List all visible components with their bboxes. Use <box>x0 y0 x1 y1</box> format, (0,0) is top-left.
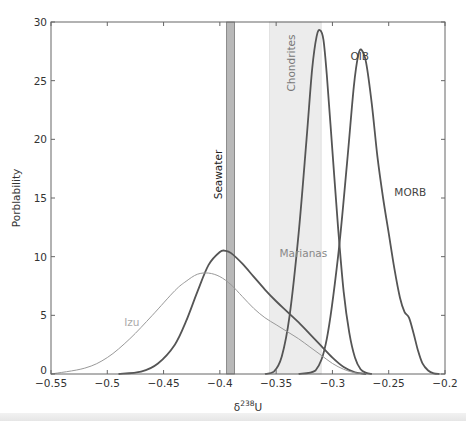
seawater-label: Seawater <box>212 149 224 199</box>
x-tick-label: −0.55 <box>35 377 67 389</box>
morb-label: MORB <box>394 186 426 198</box>
seawater-band <box>227 22 235 374</box>
density-curves <box>51 30 439 374</box>
y-tick-label: 25 <box>34 75 47 87</box>
y-tick-label: 15 <box>34 192 47 204</box>
oib-label: OIB <box>350 50 369 62</box>
x-axis-ticks: −0.55−0.5−0.45−0.4−0.35−0.3−0.25−0.2 <box>35 22 458 389</box>
shaded-bands <box>227 22 322 374</box>
x-tick-label: −0.2 <box>432 377 458 389</box>
x-tick-label: −0.3 <box>320 377 346 389</box>
plot-frame <box>51 22 445 374</box>
izu-label: Izu <box>124 316 139 328</box>
page-bottom-edge <box>0 413 466 421</box>
chondrites-label: Chondrites <box>285 35 297 92</box>
x-tick-label: −0.45 <box>147 377 179 389</box>
y-tick-label: 30 <box>34 16 47 28</box>
x-axis-label: δ238U <box>234 399 262 413</box>
x-tick-label: −0.25 <box>373 377 405 389</box>
y-tick-label: 10 <box>34 251 47 263</box>
x-tick-label: −0.4 <box>207 377 233 389</box>
x-tick-label: −0.35 <box>260 377 292 389</box>
y-axis-label: Porblability <box>10 169 22 227</box>
x-tick-label: −0.5 <box>95 377 121 389</box>
y-tick-label: 20 <box>34 133 47 145</box>
marianas-label: Marianas <box>280 247 328 259</box>
chart-canvas: −0.55−0.5−0.45−0.4−0.35−0.3−0.25−0.2 051… <box>0 0 466 421</box>
y-tick-label: 0 <box>40 364 47 376</box>
y-tick-label: 5 <box>40 309 47 321</box>
